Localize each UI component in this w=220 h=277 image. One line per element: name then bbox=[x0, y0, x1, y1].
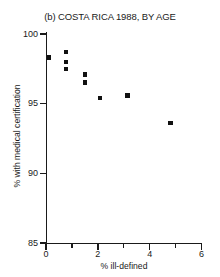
x-tick-minor-3 bbox=[123, 244, 124, 248]
data-point bbox=[83, 80, 88, 85]
x-tick-label-2: 2 bbox=[88, 250, 108, 259]
data-point bbox=[47, 55, 52, 60]
x-tick-minor-5 bbox=[175, 244, 176, 248]
x-tick-label-0: 0 bbox=[36, 250, 56, 259]
x-axis-title: % ill-defined bbox=[46, 261, 202, 271]
scatter-chart-figure: (b) COSTA RICA 1988, BY AGE 859095100 02… bbox=[0, 0, 220, 277]
y-tick-label-85: 85 bbox=[0, 239, 38, 248]
plot-data-area bbox=[46, 34, 201, 243]
data-point bbox=[64, 67, 69, 72]
data-point bbox=[83, 72, 88, 77]
x-tick-label-6: 6 bbox=[192, 250, 212, 259]
data-point bbox=[168, 121, 173, 126]
data-point bbox=[64, 50, 69, 55]
x-tick-label-4: 4 bbox=[140, 250, 160, 259]
data-point bbox=[125, 93, 130, 98]
y-tick-label-100: 100 bbox=[0, 30, 38, 39]
data-point bbox=[64, 60, 69, 65]
y-axis-title: % with medical certification bbox=[12, 56, 22, 216]
x-tick-minor-1 bbox=[71, 244, 72, 248]
chart-title: (b) COSTA RICA 1988, BY AGE bbox=[0, 11, 220, 22]
data-point bbox=[98, 96, 103, 101]
